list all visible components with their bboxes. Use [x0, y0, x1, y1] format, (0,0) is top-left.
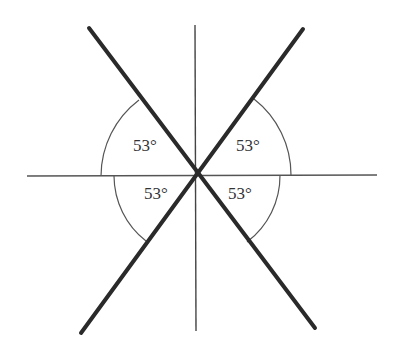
angle-label-upper-left: 53°: [133, 136, 157, 155]
angle-diagram: 53° 53° 53° 53°: [0, 0, 405, 337]
lower-right-angle-arc: [247, 175, 280, 242]
angle-label-lower-left: 53°: [144, 184, 168, 203]
angle-label-upper-right: 53°: [236, 136, 260, 155]
diagonal-line-left-to-right-down: [89, 28, 315, 328]
angle-label-lower-right: 53°: [228, 184, 252, 203]
lower-left-angle-arc: [114, 176, 146, 241]
